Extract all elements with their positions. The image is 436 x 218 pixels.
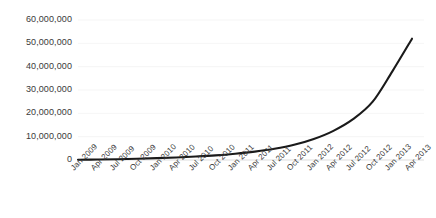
y-axis-tick-label: 30,000,000 — [0, 84, 72, 94]
y-axis-tick-label: 50,000,000 — [0, 37, 72, 47]
y-axis-tick-label: 20,000,000 — [0, 107, 72, 117]
data-series-line — [78, 39, 412, 160]
y-axis-tick-label: 0 — [0, 154, 72, 164]
y-axis-tick-label: 60,000,000 — [0, 14, 72, 24]
line-chart: 010,000,00020,000,00030,000,00040,000,00… — [0, 0, 436, 218]
y-axis-tick-label: 10,000,000 — [0, 131, 72, 141]
y-axis-tick-label: 40,000,000 — [0, 61, 72, 71]
gridlines — [78, 20, 424, 160]
